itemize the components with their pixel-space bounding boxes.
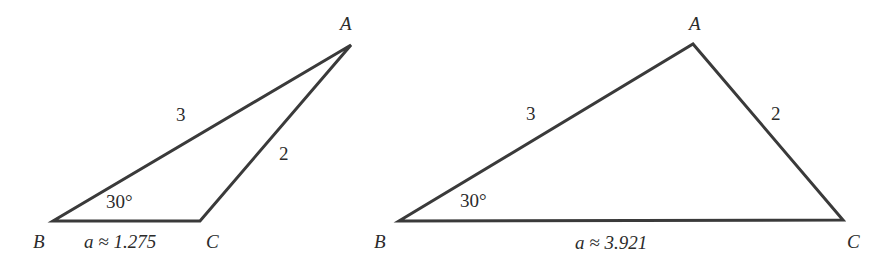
vertex-label-B: B — [374, 231, 386, 252]
triangle-diagram: A B C 3 2 30° a ≈ 1.275 A B C 3 2 30° a … — [0, 0, 894, 257]
side-a-length: a ≈ 3.921 — [575, 232, 647, 253]
triangle-left: A B C 3 2 30° a ≈ 1.275 — [33, 13, 352, 252]
angle-B-label: 30° — [460, 190, 487, 211]
vertex-label-C: C — [206, 231, 219, 252]
triangle-left-edges — [53, 45, 351, 221]
vertex-label-C: C — [847, 231, 860, 252]
vertex-label-A: A — [338, 13, 352, 34]
angle-B-label: 30° — [106, 191, 133, 212]
triangle-right: A B C 3 2 30° a ≈ 3.921 — [374, 13, 860, 253]
side-c-length: 3 — [526, 103, 536, 124]
vertex-label-B: B — [33, 231, 45, 252]
side-a-length: a ≈ 1.275 — [84, 231, 156, 252]
vertex-label-A: A — [687, 13, 701, 34]
side-b-length: 2 — [279, 143, 289, 164]
side-c-length: 3 — [176, 104, 186, 125]
side-b-length: 2 — [771, 103, 781, 124]
